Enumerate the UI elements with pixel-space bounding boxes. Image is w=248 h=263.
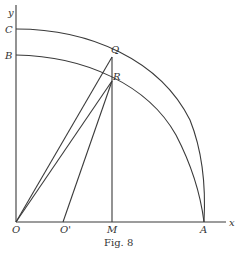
y-axis-label: y (7, 7, 14, 18)
x-axis-label: x (229, 217, 235, 228)
point-label-B: B (4, 50, 12, 61)
point-label-Q: Q (111, 44, 119, 55)
line-OQ (16, 57, 112, 222)
point-label-O-prime: O' (60, 224, 71, 235)
point-label-A: A (199, 224, 207, 235)
point-label-O: O (12, 224, 20, 235)
line-O-prime-R (63, 81, 112, 222)
point-label-C: C (5, 24, 13, 35)
figure-caption: Fig. 8 (104, 237, 133, 248)
line-OR (16, 81, 112, 222)
point-label-M: M (106, 224, 118, 235)
point-label-R: R (112, 71, 121, 82)
geometry-figure: y x C B Q R O O' M A Fig. 8 (0, 0, 248, 263)
inner-arc-BA (16, 55, 204, 222)
outer-arc-CA (16, 29, 204, 222)
